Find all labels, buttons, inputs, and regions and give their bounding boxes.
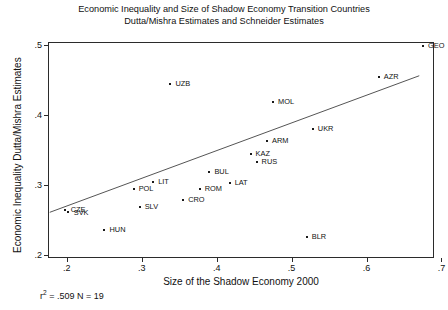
x-tick-label-2: .4 [213, 263, 221, 273]
x-tick-2 [217, 258, 218, 262]
point-label-bul: BUL [214, 168, 228, 176]
chart-title: Economic Inequality and Size of Shadow E… [0, 3, 448, 15]
point-label-rom: ROM [205, 185, 222, 193]
data-point-azr [378, 76, 380, 78]
point-label-cro: CRO [188, 196, 204, 204]
data-point-kaz [250, 153, 252, 155]
data-point-uzb [169, 83, 171, 85]
x-tick-label-5: .7 [438, 263, 446, 273]
point-label-svk: SVK [74, 209, 89, 217]
point-label-rus: RUS [262, 158, 278, 166]
x-tick-label-4: .6 [363, 263, 371, 273]
x-tick-3 [292, 258, 293, 262]
data-point-lat [229, 182, 231, 184]
point-label-uzb: UZB [175, 80, 190, 88]
x-tick-0 [67, 258, 68, 262]
point-label-pol: POL [139, 185, 154, 193]
plot-area: CZESVKHUNPOLSLVLITUZBCROROMBULLATKAZRUSA… [48, 42, 434, 258]
point-label-ukr: UKR [318, 125, 334, 133]
chart-container: Economic Inequality and Size of Shadow E… [0, 0, 448, 310]
point-label-hun: HUN [109, 226, 125, 234]
point-label-lat: LAT [235, 179, 248, 187]
x-tick-label-0: .2 [63, 263, 71, 273]
r-squared-annotation: r2 = .509 N = 19 [40, 289, 104, 301]
data-point-arm [266, 140, 268, 142]
data-point-lit [152, 181, 154, 183]
x-axis-label: Size of the Shadow Economy 2000 [48, 276, 434, 287]
data-point-cze [64, 209, 66, 211]
y-tick-label-3: .5 [34, 40, 42, 50]
y-tick-3 [44, 45, 48, 46]
point-label-mol: MOL [278, 98, 294, 106]
data-point-hun [103, 229, 105, 231]
data-point-cro [182, 199, 184, 201]
data-point-geo [422, 45, 424, 47]
point-label-slv: SLV [145, 203, 158, 211]
y-tick-label-0: .2 [34, 250, 42, 260]
data-point-pol [133, 188, 135, 190]
y-tick-label-2: .4 [34, 110, 42, 120]
data-point-rus [256, 161, 258, 163]
r-value-text: = .509 N = 19 [47, 291, 104, 301]
point-label-azr: AZR [384, 73, 399, 81]
x-tick-4 [367, 258, 368, 262]
data-point-svk [67, 211, 69, 213]
data-point-ukr [312, 128, 314, 130]
y-axis-label: Economic Inequality Dutta/Mishra Estimat… [12, 57, 23, 253]
point-label-geo: GEO [428, 42, 444, 50]
y-tick-0 [44, 255, 48, 256]
data-point-rom [199, 188, 201, 190]
x-tick-label-3: .5 [288, 263, 296, 273]
x-tick-1 [142, 258, 143, 262]
point-label-blr: BLR [312, 233, 326, 241]
data-point-slv [139, 206, 141, 208]
y-tick-1 [44, 185, 48, 186]
chart-title-block: Economic Inequality and Size of Shadow E… [0, 3, 448, 27]
point-label-arm: ARM [272, 137, 288, 145]
y-tick-label-1: .3 [34, 180, 42, 190]
point-label-lit: LIT [158, 178, 169, 186]
data-point-mol [272, 101, 274, 103]
chart-subtitle: Dutta/Mishra Estimates and Schneider Est… [0, 15, 448, 27]
x-tick-label-1: .3 [138, 263, 146, 273]
y-tick-2 [44, 115, 48, 116]
x-tick-5 [441, 258, 442, 262]
data-point-blr [306, 236, 308, 238]
data-point-bul [208, 171, 210, 173]
